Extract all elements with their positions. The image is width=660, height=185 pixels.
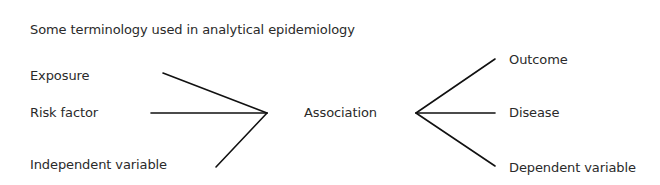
line-association-to-dependent-variable	[416, 113, 495, 166]
line-exposure-to-association	[163, 73, 267, 113]
line-independent-variable-to-association	[216, 113, 267, 167]
line-association-to-outcome	[416, 59, 495, 113]
connector-lines	[0, 0, 660, 185]
